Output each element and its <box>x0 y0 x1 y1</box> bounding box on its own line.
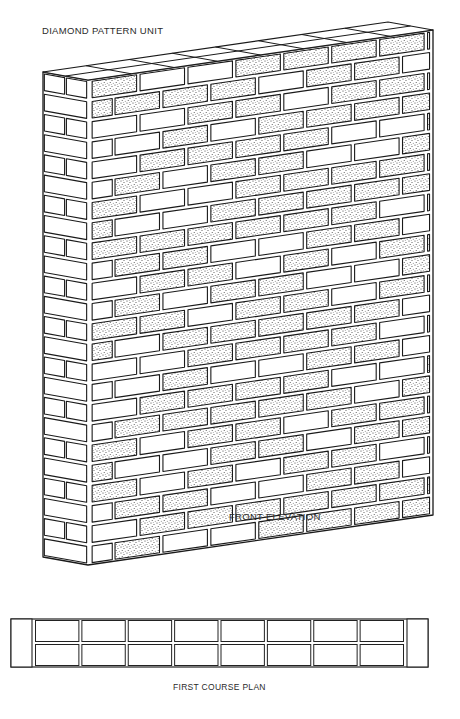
first-course-plan-label: FIRST COURSE PLAN <box>173 682 266 692</box>
first-course-plan <box>11 619 428 667</box>
brick-wall-drawing <box>0 0 460 719</box>
front-elevation-wall <box>43 22 433 565</box>
front-elevation-label: FRONT ELEVATION <box>229 511 321 522</box>
